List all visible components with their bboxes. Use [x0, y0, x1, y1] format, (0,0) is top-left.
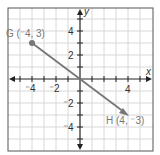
x-axis-label: x	[145, 66, 152, 77]
x-tick-neg2: ⁻2	[49, 83, 60, 94]
y-tick-neg2: ⁻2	[63, 98, 74, 109]
y-axis-label: y	[83, 6, 90, 17]
y-tick-2: 2	[68, 50, 74, 61]
point-g-label: G (⁻4, 3)	[6, 28, 45, 39]
y-tick-4: 4	[68, 26, 74, 37]
graph-svg: x y ⁻4 ⁻2 4 4 2 ⁻2 ⁻4 G (⁻4, 3) H (4, ⁻3…	[0, 0, 160, 155]
x-axis-left-arrow-icon	[9, 76, 15, 82]
y-axis-up-arrow-icon	[77, 9, 83, 15]
point-h-label: H (4, ⁻3)	[106, 115, 144, 126]
x-tick-neg4: ⁻4	[25, 83, 36, 94]
y-tick-neg4: ⁻4	[63, 122, 74, 133]
point-g	[29, 40, 35, 46]
coordinate-plane: x y ⁻4 ⁻2 4 4 2 ⁻2 ⁻4 G (⁻4, 3) H (4, ⁻3…	[0, 0, 160, 155]
y-axis-down-arrow-icon	[77, 144, 83, 150]
segment-gh	[32, 43, 124, 112]
x-tick-4: 4	[125, 84, 131, 95]
